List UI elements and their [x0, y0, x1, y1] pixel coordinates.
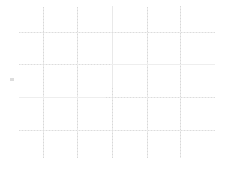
- vertical-gridline-2-dots: [77, 7, 78, 158]
- vertical-gridline-1-dots: [43, 7, 44, 158]
- horizontal-gridline-4-dots: [19, 130, 215, 131]
- faint-grid-canvas: [0, 0, 227, 169]
- gridlines-layer: [0, 0, 227, 169]
- axis-tick-mark: [10, 78, 14, 81]
- horizontal-gridline-2-dots: [19, 64, 112, 65]
- vertical-gridline-3-dots: [112, 88, 113, 158]
- vertical-gridline-4-dots: [147, 7, 148, 158]
- vertical-gridline-5-dots: [180, 6, 181, 158]
- horizontal-gridline-3-dots: [106, 97, 215, 98]
- horizontal-gridline-1-dots: [19, 32, 215, 33]
